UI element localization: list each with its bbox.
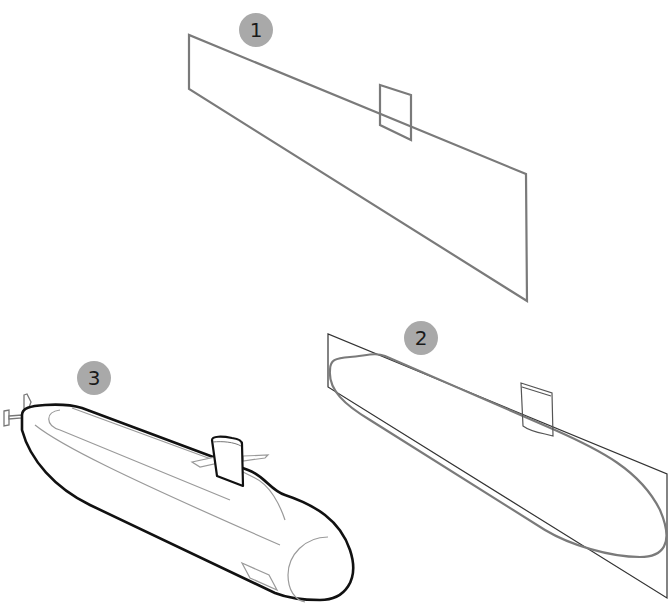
- step-2-marker: 2: [404, 321, 438, 355]
- step-3-number: 3: [88, 366, 101, 390]
- drawing-tutorial-canvas: 1 2: [0, 0, 672, 607]
- step-3-hull-outline: [22, 405, 353, 600]
- step-1-marker: 1: [239, 13, 273, 47]
- step-1-tower-box: [380, 85, 411, 140]
- step-2-number: 2: [415, 326, 428, 350]
- step-3-marker: 3: [77, 361, 111, 395]
- step-1-group: 1: [189, 13, 527, 301]
- step-2-perspective-frame: [328, 334, 667, 598]
- step-1-number: 1: [250, 18, 263, 42]
- step-3-group: 3: [4, 361, 353, 602]
- step-1-perspective-box: [189, 35, 527, 301]
- step-2-group: 2: [328, 321, 667, 598]
- step-2-hull-outline: [330, 354, 667, 557]
